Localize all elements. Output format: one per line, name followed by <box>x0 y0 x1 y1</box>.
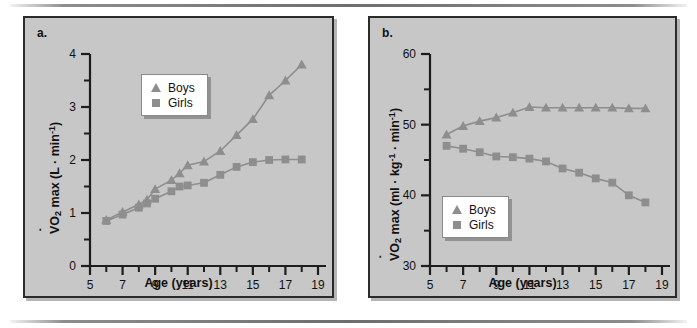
legend-item-boys: Boys <box>451 202 496 217</box>
legend-item-girls: Girls <box>150 95 195 110</box>
triangle-marker-icon <box>451 205 462 214</box>
panel-label-a: a. <box>37 26 47 40</box>
legend-label-girls: Girls <box>469 218 494 232</box>
legend-a: Boys Girls <box>141 74 208 116</box>
y-axis-title-a: VO2 max (L · min-1) <box>47 122 63 234</box>
legend-item-boys: Boys <box>150 80 195 95</box>
x-axis-title-b: Age (years) <box>370 276 675 290</box>
triangle-marker-icon <box>150 83 161 92</box>
legend-b: Boys Girls <box>442 196 509 238</box>
legend-label-boys: Boys <box>168 81 195 95</box>
x-axis-title-a: Age (years) <box>25 276 332 290</box>
square-marker-icon <box>150 99 161 107</box>
chart-panel-b: b. 304050605791113151719 Boys Girls Age … <box>368 16 677 298</box>
y-axis-title-b: VO2 max (ml · kg-1 · min-1) <box>387 108 403 261</box>
y-tick-label: 60 <box>390 47 416 61</box>
legend-label-girls: Girls <box>168 96 193 110</box>
legend-item-girls: Girls <box>451 217 496 232</box>
square-marker-icon <box>451 221 462 229</box>
y-tick-label: 0 <box>50 259 76 273</box>
panel-label-b: b. <box>382 26 393 40</box>
legend-label-boys: Boys <box>469 203 496 217</box>
y-tick-label: 4 <box>50 47 76 61</box>
top-rule <box>10 4 687 7</box>
figure-page: a. 012345791113151719 Boys Girls Age (ye… <box>0 0 697 328</box>
y-tick-label: 3 <box>50 100 76 114</box>
y-tick-label: 30 <box>390 259 416 273</box>
chart-panel-a: a. 012345791113151719 Boys Girls Age (ye… <box>23 16 334 298</box>
bottom-rule <box>10 320 687 323</box>
